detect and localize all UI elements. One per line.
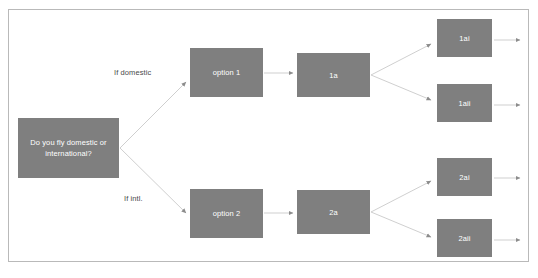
node-2aii[interactable]: 2aii xyxy=(437,219,492,257)
node-option-2[interactable]: option 2 xyxy=(190,189,263,238)
node-1a[interactable]: 1a xyxy=(297,53,370,97)
node-1ai[interactable]: 1ai xyxy=(437,19,492,57)
node-decision-label: Do you fly domestic or international? xyxy=(18,137,119,159)
node-2aii-label: 2aii xyxy=(437,233,492,244)
edge-label-if-intl: If intl. xyxy=(124,194,143,203)
node-1aii[interactable]: 1aii xyxy=(437,84,492,122)
node-option-1[interactable]: option 1 xyxy=(190,48,263,97)
node-1ai-label: 1ai xyxy=(437,33,492,44)
node-2a-label: 2a xyxy=(297,207,370,218)
flowchart-canvas: Do you fly domestic or international? op… xyxy=(0,0,538,278)
node-option-1-label: option 1 xyxy=(190,67,263,78)
node-option-2-label: option 2 xyxy=(190,208,263,219)
node-1aii-label: 1aii xyxy=(437,98,492,109)
node-1a-label: 1a xyxy=(297,70,370,81)
node-decision[interactable]: Do you fly domestic or international? xyxy=(18,118,119,178)
node-2a[interactable]: 2a xyxy=(297,190,370,234)
edge-label-if-domestic: If domestic xyxy=(114,68,151,77)
node-2ai-label: 2ai xyxy=(437,172,492,183)
node-2ai[interactable]: 2ai xyxy=(437,158,492,196)
